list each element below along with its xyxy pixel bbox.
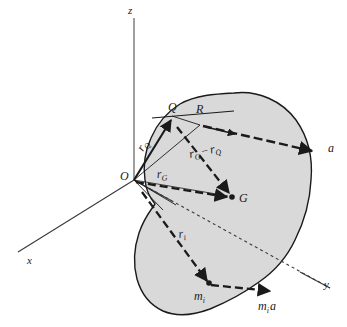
point-g-label: G <box>239 191 248 205</box>
vector-a-label: a <box>328 141 334 155</box>
point-mi-subscript: i <box>203 296 205 305</box>
axis-x-line <box>18 180 134 252</box>
axis-z-label: z <box>127 4 133 16</box>
axis-x-label: x <box>26 254 32 266</box>
diagram-canvas: z x y O Q R G rQ rG rG−rQ <box>0 0 347 327</box>
vector-diagram: z x y O Q R G rQ rG rG−rQ <box>0 0 347 327</box>
point-g-marker <box>229 194 235 200</box>
axis-y-label: y <box>323 278 329 290</box>
vector-mi-a-symbol: m <box>258 299 267 313</box>
vector-mi-a-subscript: i <box>267 306 269 315</box>
vector-r-g-subscript: G <box>161 173 168 182</box>
vector-mi-a-suffix: a <box>270 299 276 313</box>
point-r-label: R <box>195 102 204 116</box>
point-origin-label: O <box>120 169 129 183</box>
point-mi-symbol: m <box>194 289 203 303</box>
vector-mi-a-label: mia <box>258 299 276 315</box>
point-q-label: Q <box>168 100 177 114</box>
rigid-body-shape <box>135 93 312 315</box>
point-mi-marker <box>206 280 212 286</box>
